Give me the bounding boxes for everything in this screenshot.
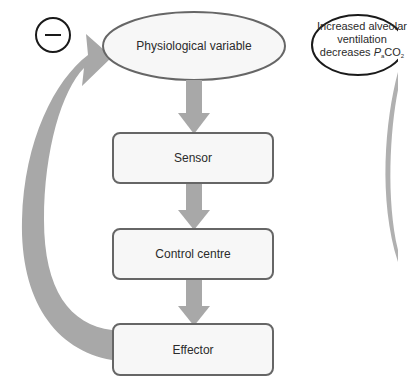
partial-arrow-right <box>385 72 398 262</box>
arrow-control-to-effector <box>178 280 210 326</box>
callout-line-2: ventilation <box>312 33 412 46</box>
callout-text: Increased alveolar ventilation decreases… <box>312 20 412 63</box>
callout-line-3: decreases PaCO2 <box>312 46 412 63</box>
variable-label: Physiological variable <box>103 39 285 53</box>
arrow-variable-to-sensor <box>178 80 210 134</box>
sensor-box: Sensor <box>112 132 274 184</box>
effector-box: Effector <box>112 323 274 376</box>
control-centre-label: Control centre <box>155 247 230 261</box>
feedback-arrow <box>22 34 112 360</box>
callout-line-1: Increased alveolar <box>312 20 412 33</box>
effector-label: Effector <box>172 343 213 357</box>
sensor-label: Sensor <box>174 151 212 165</box>
control-centre-box: Control centre <box>112 228 274 280</box>
arrow-sensor-to-control <box>178 184 210 230</box>
